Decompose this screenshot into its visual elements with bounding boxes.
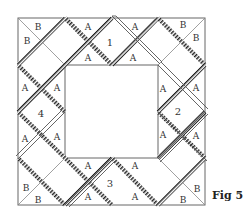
label-A: A: [53, 83, 61, 93]
label-B: B: [35, 22, 42, 32]
label-A: A: [21, 134, 29, 144]
section-number-bottom: 3: [107, 178, 113, 189]
label-B: B: [23, 183, 30, 193]
section-number-left: 4: [38, 108, 44, 119]
label-A: A: [84, 53, 92, 63]
label-B: B: [35, 195, 42, 205]
label-B: B: [180, 195, 187, 205]
figure-caption: Fig 5: [212, 189, 243, 202]
label-A: A: [131, 192, 139, 202]
label-A: A: [84, 192, 92, 202]
label-B: B: [180, 20, 187, 30]
label-A: A: [159, 84, 167, 94]
label-B: B: [193, 33, 200, 43]
label-A: A: [192, 83, 200, 93]
label-A: A: [159, 130, 167, 140]
label-A: A: [192, 131, 200, 141]
label-A: A: [21, 83, 29, 93]
label-A: A: [84, 161, 92, 171]
label-A: A: [129, 53, 137, 63]
label-A: A: [131, 161, 139, 171]
label-B: B: [194, 184, 201, 194]
section-number-top: 1: [107, 37, 113, 48]
label-B: B: [24, 36, 31, 46]
label-A: A: [53, 132, 61, 142]
label-A: A: [131, 22, 139, 32]
section-number-right: 2: [175, 106, 181, 117]
quilt-diagram: B B A A A A B B A A A A B B A A A A B B …: [0, 0, 243, 220]
label-A: A: [84, 22, 92, 32]
